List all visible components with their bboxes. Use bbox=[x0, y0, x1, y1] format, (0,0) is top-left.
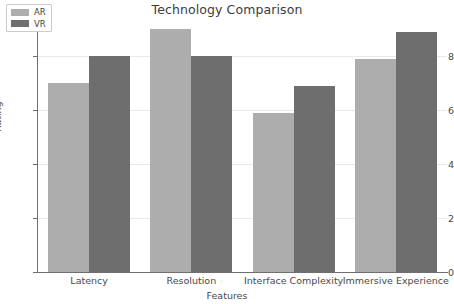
bar-ar-resolution bbox=[150, 29, 191, 272]
legend-swatch-icon bbox=[11, 9, 29, 16]
bar-ar-immersive-experience bbox=[355, 59, 396, 272]
x-tick-label: Interface Complexity bbox=[244, 275, 343, 286]
bar-ar-latency bbox=[48, 83, 89, 272]
chart-legend: ARVR bbox=[6, 4, 52, 32]
bar-vr-interface-complexity bbox=[294, 86, 335, 272]
legend-label: AR bbox=[34, 8, 46, 17]
chart-title: Technology Comparison bbox=[0, 2, 454, 17]
x-tick-label: Latency bbox=[70, 275, 108, 286]
legend-item-vr[interactable]: VR bbox=[11, 20, 46, 29]
x-tick-label: Immersive Experience bbox=[343, 275, 449, 286]
y-axis-label: Rating bbox=[0, 101, 3, 132]
y-tick-mark bbox=[33, 218, 37, 219]
plot-area bbox=[38, 18, 447, 272]
y-tick-mark bbox=[33, 164, 37, 165]
chart-figure: Technology Comparison Rating Features 02… bbox=[0, 0, 454, 304]
bar-ar-interface-complexity bbox=[253, 113, 294, 272]
axis-spine-bottom bbox=[37, 272, 448, 273]
y-tick-mark bbox=[33, 56, 37, 57]
bar-vr-resolution bbox=[191, 56, 232, 272]
legend-item-ar[interactable]: AR bbox=[11, 8, 46, 17]
y-tick-mark bbox=[33, 272, 37, 273]
x-axis-label: Features bbox=[0, 290, 454, 301]
bar-vr-immersive-experience bbox=[396, 32, 437, 272]
legend-swatch-icon bbox=[11, 20, 29, 27]
y-tick-mark bbox=[33, 110, 37, 111]
bar-vr-latency bbox=[89, 56, 130, 272]
x-tick-label: Resolution bbox=[167, 275, 217, 286]
legend-label: VR bbox=[34, 20, 46, 29]
